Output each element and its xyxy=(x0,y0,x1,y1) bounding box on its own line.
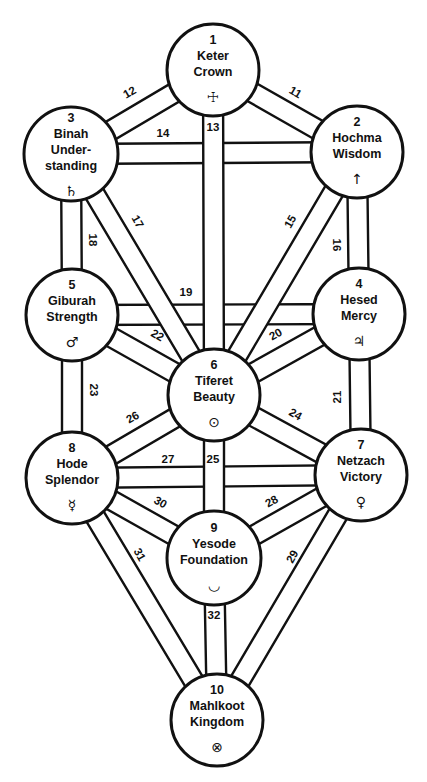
path-label-18: 18 xyxy=(87,234,99,247)
node-mahlkoot: 10MahlkootKingdom⊗ xyxy=(171,674,263,766)
tree-of-life-diagram: 1112131415161718192021222324252627282930… xyxy=(0,0,427,782)
path-label-19: 19 xyxy=(180,286,193,298)
mars-icon: ♂ xyxy=(66,334,79,350)
venus-icon: ♀ xyxy=(356,494,366,510)
path-label-30: 30 xyxy=(152,494,169,511)
path-label-27: 27 xyxy=(162,453,175,465)
path-13 xyxy=(203,70,224,395)
node-number: 1 xyxy=(210,33,217,47)
node-hebrew-name: Netzach xyxy=(337,454,385,468)
node-english-name: Splendor xyxy=(45,473,99,487)
path-label-14: 14 xyxy=(157,127,170,139)
earth-icon: ⊗ xyxy=(211,739,223,755)
path-label-21: 21 xyxy=(331,390,343,403)
node-number: 2 xyxy=(354,115,361,129)
node-english-name: Mercy xyxy=(341,309,377,323)
node-number: 6 xyxy=(211,358,218,372)
path-label-11: 11 xyxy=(287,84,304,101)
path-label-15: 15 xyxy=(282,212,299,230)
node-english-name: standing xyxy=(45,159,97,173)
node-binah: 3BinahUnder-standing♄ xyxy=(24,107,118,201)
node-number: 5 xyxy=(69,278,76,292)
node-hesed: 4HesedMercy♃ xyxy=(313,268,405,360)
node-netzach: 7NetzachVictory♀ xyxy=(315,429,407,521)
node-hochma: 2HochmaWisdom↑ xyxy=(311,106,403,198)
node-hebrew-name: Tiferet xyxy=(195,374,234,388)
path-label-32: 32 xyxy=(208,609,221,621)
node-english-name: Crown xyxy=(194,65,233,79)
path-label-24: 24 xyxy=(287,406,305,423)
cross-icon: ☩ xyxy=(207,89,220,105)
path-label-25: 25 xyxy=(207,453,220,465)
node-english-name: Under- xyxy=(51,143,91,157)
node-hebrew-name: Giburah xyxy=(48,294,96,308)
node-hebrew-name: Hesed xyxy=(340,293,378,307)
path-label-26: 26 xyxy=(124,409,141,426)
node-hebrew-name: Yesode xyxy=(192,537,236,551)
node-number: 4 xyxy=(356,277,363,291)
moon-icon: ◡ xyxy=(208,577,220,593)
node-number: 3 xyxy=(68,111,75,125)
node-hebrew-name: Keter xyxy=(197,49,229,63)
path-label-12: 12 xyxy=(121,84,138,101)
node-tiferet: 6TiferetBeauty⊙ xyxy=(168,349,260,441)
node-number: 8 xyxy=(69,441,76,455)
mercury-icon: ☿ xyxy=(68,497,77,513)
node-yesode: 9YesodeFoundation◡ xyxy=(167,511,261,605)
arrow-up-icon: ↑ xyxy=(351,171,363,187)
node-number: 10 xyxy=(210,683,224,697)
path-label-17: 17 xyxy=(129,213,146,230)
path-label-20: 20 xyxy=(267,326,284,343)
sun-icon: ⊙ xyxy=(208,414,220,430)
node-number: 7 xyxy=(358,438,365,452)
node-giburah: 5GiburahStrength♂ xyxy=(26,269,118,361)
node-keter: 1KeterCrown☩ xyxy=(167,24,259,116)
node-hebrew-name: Hode xyxy=(56,457,87,471)
node-english-name: Beauty xyxy=(193,390,235,404)
node-hebrew-name: Binah xyxy=(54,127,89,141)
node-number: 9 xyxy=(211,521,218,535)
node-hode: 8HodeSplendor☿ xyxy=(26,432,118,524)
path-label-23: 23 xyxy=(88,384,100,397)
node-english-name: Foundation xyxy=(180,553,248,567)
node-english-name: Wisdom xyxy=(333,147,382,161)
jupiter-icon: ♃ xyxy=(353,333,366,349)
node-hebrew-name: Hochma xyxy=(332,131,382,145)
node-english-name: Victory xyxy=(340,470,382,484)
path-label-28: 28 xyxy=(263,492,281,509)
path-label-16: 16 xyxy=(331,239,343,252)
node-english-name: Strength xyxy=(46,310,97,324)
saturn-icon: ♄ xyxy=(65,183,78,199)
node-hebrew-name: Mahlkoot xyxy=(190,699,246,713)
node-english-name: Kingdom xyxy=(190,715,244,729)
path-label-13: 13 xyxy=(207,121,220,133)
